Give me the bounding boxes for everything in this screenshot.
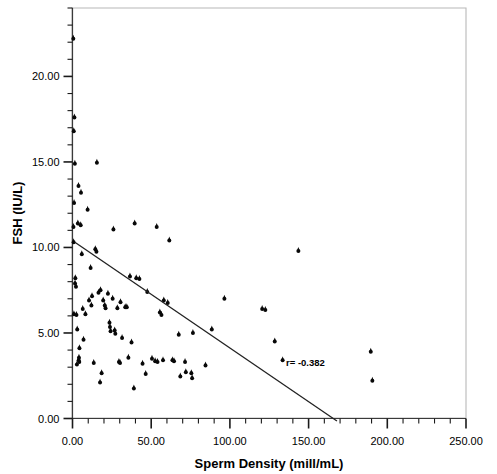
correlation-annotation: r= -0.382 xyxy=(286,357,325,368)
y-tick-label: 10.00 xyxy=(32,241,60,253)
y-tick-label: 15.00 xyxy=(32,156,60,168)
x-tick-label: 250.00 xyxy=(449,435,483,447)
x-axis-title: Sperm Density (mill/mL) xyxy=(195,456,344,471)
y-tick-label: 0.00 xyxy=(38,413,59,425)
chart-annotations: r= -0.382 xyxy=(286,357,325,368)
plot-canvas: 0.005.0010.0015.0020.00 0.0050.00100.001… xyxy=(0,0,497,474)
scatter-plot-figure: 0.005.0010.0015.0020.00 0.0050.00100.001… xyxy=(0,0,497,474)
y-tick-label: 5.00 xyxy=(38,327,59,339)
x-tick-label: 100.00 xyxy=(213,435,247,447)
x-tick-label: 200.00 xyxy=(370,435,404,447)
x-tick-label: 150.00 xyxy=(292,435,326,447)
figure-background xyxy=(0,0,497,474)
y-tick-label: 20.00 xyxy=(32,70,60,82)
y-axis-title: FSH (IU/L) xyxy=(10,182,25,245)
x-tick-label: 50.00 xyxy=(137,435,165,447)
x-tick-label: 0.00 xyxy=(62,435,83,447)
